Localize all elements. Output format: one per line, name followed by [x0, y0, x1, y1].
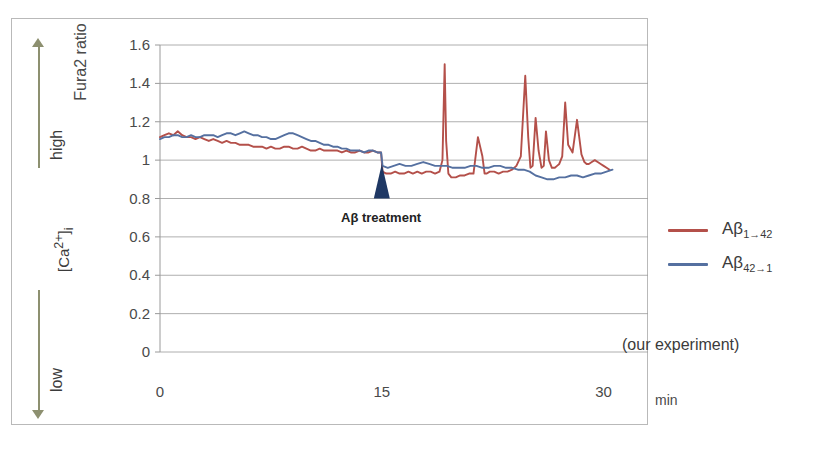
legend-swatch-1 [668, 263, 708, 266]
x-tick-label: 0 [156, 383, 164, 400]
x-tick-label: 30 [595, 383, 612, 400]
legend-label-0: Aβ1→42 [722, 219, 772, 240]
legend-label-1: Aβ42→1 [722, 253, 772, 274]
y-tick-label: 0.2 [129, 305, 150, 322]
y-tick-label: 1.6 [129, 36, 150, 53]
treatment-marker-triangle [374, 164, 390, 199]
chart-plot-area: 00.20.40.60.811.21.41.601530 [0, 0, 835, 453]
treatment-annotation-label: Aβ treatment [341, 210, 421, 225]
experiment-note: (our experiment) [622, 336, 739, 354]
y-tick-label: 0.4 [129, 266, 150, 283]
y-tick-label: 1 [142, 151, 150, 168]
y-tick-label: 0.6 [129, 228, 150, 245]
y-tick-label: 1.4 [129, 74, 150, 91]
x-tick-label: 15 [373, 383, 390, 400]
y-tick-label: 0 [142, 343, 150, 360]
legend-swatch-0 [668, 229, 708, 232]
y-tick-label: 1.2 [129, 113, 150, 130]
figure-panel: high low [Ca2+]i Fura2 ratio 00.20.40.60… [0, 0, 835, 453]
x-axis-unit-label: min [655, 392, 678, 408]
y-tick-label: 0.8 [129, 190, 150, 207]
